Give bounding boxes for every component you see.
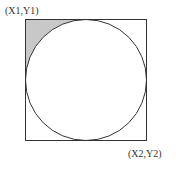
top-left-corner-label: (X1,Y1) <box>5 5 39 17</box>
shaded-corner-region <box>26 20 87 81</box>
ellipse-bounding-box-diagram: (X1,Y1) (X2,Y2) <box>0 0 176 170</box>
inscribed-circle <box>26 20 147 141</box>
bottom-right-corner-label: (X2,Y2) <box>128 148 162 160</box>
bounding-square <box>26 20 147 141</box>
